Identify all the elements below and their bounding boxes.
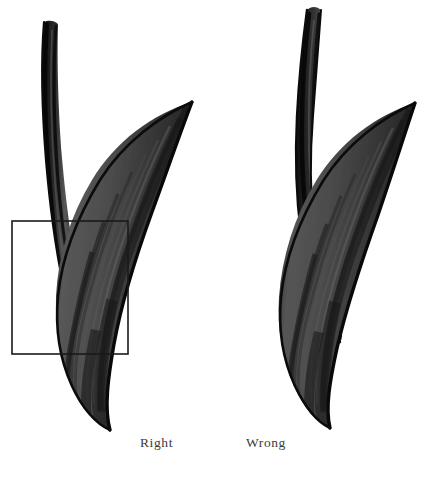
illustration-canvas	[0, 0, 430, 483]
right-figure	[279, 7, 415, 432]
left-figure	[12, 21, 192, 434]
left-figure-blade	[56, 102, 192, 434]
figure-plate: Right Wrong	[0, 0, 430, 483]
